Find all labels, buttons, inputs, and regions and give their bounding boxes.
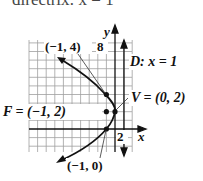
leader-vertex [116, 98, 128, 110]
vertex-label: V = (0, 2) [131, 90, 185, 106]
x-tick-label: 2 [117, 129, 124, 144]
focus-label: F = (−1, 2) [2, 104, 66, 120]
directrix-label: D: x = 1 [129, 54, 177, 69]
y-axis-label: y [102, 24, 110, 39]
point-bottom [104, 126, 109, 131]
x-axis-label: x [137, 129, 145, 144]
point-top-label: (−1, 4) [45, 39, 81, 54]
arrowhead-top [57, 57, 66, 64]
point-bottom-label: (−1, 0) [67, 158, 103, 173]
arrowhead-bottom [56, 155, 66, 163]
parabola-graph: y (−1, 4) 8 D: x = 1 V = (0, 2) F = (−1,… [0, 0, 203, 181]
point-vertex [112, 109, 117, 114]
y-tick-label: 8 [97, 39, 104, 54]
point-focus [104, 109, 109, 114]
